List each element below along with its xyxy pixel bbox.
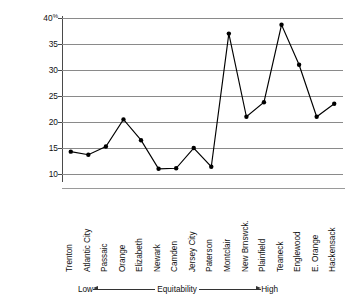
data-point <box>174 166 178 170</box>
plot-area: 10152025303540% <box>62 18 343 180</box>
data-point <box>244 115 248 119</box>
x-axis-category-label: Trenton <box>65 244 74 272</box>
arrow-left-icon <box>93 289 155 290</box>
x-axis-category-label: Passaic <box>100 243 109 272</box>
x-axis-category-label: Orange <box>118 245 127 272</box>
data-point <box>209 165 213 169</box>
data-point <box>192 146 196 150</box>
x-axis-category-label: Montclair <box>223 239 232 272</box>
x-axis-category-label: Newark <box>153 244 162 272</box>
data-point <box>69 149 73 153</box>
x-axis-category-label: Englewood <box>293 231 302 272</box>
equitability-axis-annotation: Low Equitability High <box>78 281 278 297</box>
y-axis-tick-label: 30 <box>49 65 58 75</box>
arrow-right-icon <box>199 289 261 290</box>
data-point <box>279 23 283 27</box>
x-axis-category-label: Paterson <box>205 239 214 272</box>
x-axis-category-label: Camden <box>170 241 179 272</box>
x-axis-baseline <box>62 188 345 189</box>
x-axis-category-label: Teaneck <box>276 242 285 273</box>
axis-annotation-low: Low <box>78 285 93 294</box>
y-axis-tick-label: 15 <box>49 143 58 153</box>
data-point <box>297 63 301 67</box>
data-point <box>139 138 143 142</box>
x-axis-category-label: Atlantic City <box>83 229 92 272</box>
data-point <box>86 153 90 157</box>
data-point <box>314 115 318 119</box>
x-axis-category-label: New Brnswck. <box>241 220 250 272</box>
data-point <box>156 167 160 171</box>
data-point <box>332 102 336 106</box>
x-axis-category-label: Jersey City <box>188 232 197 273</box>
x-axis-category-label: E. Orange <box>311 235 320 272</box>
y-axis-tick-label: 20 <box>49 117 58 127</box>
data-point <box>227 31 231 35</box>
axis-annotation-high: High <box>261 285 278 294</box>
y-axis-tick-label: 10 <box>49 169 58 179</box>
data-point <box>121 117 125 121</box>
data-point <box>104 144 108 148</box>
x-axis-category-labels: TrentonAtlantic CityPassaicOrangeElizabe… <box>62 192 343 272</box>
y-axis-tick-label: 25 <box>49 91 58 101</box>
data-point <box>262 100 266 104</box>
axis-annotation-center: Equitability <box>155 285 199 294</box>
data-series <box>62 18 343 180</box>
y-axis-tick-label: 40% <box>43 13 58 24</box>
series-line <box>71 25 334 169</box>
y-axis-tick-label: 35 <box>49 39 58 49</box>
x-axis-category-label: Plainfield <box>258 239 267 272</box>
x-axis-category-label: Hackensack <box>328 227 337 272</box>
line-chart: Per cent Business and Professional Class… <box>0 0 356 303</box>
x-axis-category-label: Elizabeth <box>135 238 144 272</box>
